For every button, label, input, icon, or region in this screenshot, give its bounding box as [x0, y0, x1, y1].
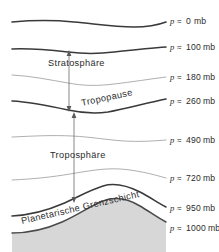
pressure-label-1000mb: p ≈ 1000 mb — [169, 223, 219, 233]
pressure-relation: ≈ — [177, 136, 182, 145]
pressure-value: 260 — [186, 96, 201, 106]
pressure-symbol: p — [169, 203, 175, 213]
pressure-relation: ≈ — [177, 73, 182, 82]
pressure-relation: ≈ — [177, 204, 182, 213]
pressure-label-180mb: p ≈ 180 mb — [169, 72, 215, 82]
isobar-line-0mb — [12, 21, 166, 28]
isobar-line-720mb — [12, 169, 166, 180]
pressure-symbol: p — [169, 173, 175, 183]
pressure-value: 490 — [186, 135, 201, 145]
layer-label-tropopause: Tropopause — [80, 87, 133, 108]
pressure-label-720mb: p ≈ 720 mb — [169, 173, 215, 183]
pressure-unit: mb — [194, 16, 206, 26]
pressure-symbol: p — [169, 72, 175, 82]
pressure-relation: ≈ — [177, 43, 182, 52]
pressure-unit: mb — [203, 135, 215, 145]
pressure-label-100mb: p ≈ 100 mb — [169, 42, 215, 52]
pressure-label-0mb: p ≈ 0 mb — [169, 16, 206, 26]
pressure-label-260mb: p ≈ 260 mb — [169, 96, 215, 106]
pressure-value: 0 — [186, 16, 191, 26]
pressure-value: 1000 — [186, 223, 206, 233]
pressure-symbol: p — [169, 42, 175, 52]
pressure-label-950mb: p ≈ 950 mb — [169, 203, 215, 213]
pressure-relation: ≈ — [177, 224, 182, 233]
pressure-label-490mb: p ≈ 490 mb — [169, 135, 215, 145]
isobar-line-180mb — [12, 75, 166, 85]
pressure-unit: mb — [203, 72, 215, 82]
pressure-unit: mb — [203, 42, 215, 52]
pressure-symbol: p — [169, 135, 175, 145]
isobar-line-100mb — [12, 47, 166, 54]
pressure-value: 950 — [186, 203, 201, 213]
pressure-relation: ≈ — [177, 97, 182, 106]
layer-label-stratosphere: Stratosphäre — [48, 58, 105, 68]
pressure-value: 720 — [186, 173, 201, 183]
atmosphere-layers-figure: Stratosphäre Tropopause Troposphäre Plan… — [0, 0, 219, 252]
pressure-symbol: p — [169, 16, 175, 26]
pressure-relation: ≈ — [177, 17, 182, 26]
pressure-relation: ≈ — [177, 174, 182, 183]
pressure-unit: mb — [203, 173, 215, 183]
pressure-value: 180 — [186, 72, 201, 82]
pressure-symbol: p — [169, 223, 175, 233]
pressure-unit: mb — [203, 203, 215, 213]
pressure-symbol: p — [169, 96, 175, 106]
layer-label-troposphere: Troposphäre — [50, 150, 106, 160]
pressure-unit: mb — [208, 223, 219, 233]
pressure-unit: mb — [203, 96, 215, 106]
diagram-canvas: Stratosphäre Tropopause Troposphäre Plan… — [0, 0, 219, 252]
pressure-value: 100 — [186, 42, 201, 52]
isobar-line-490mb — [12, 136, 166, 142]
